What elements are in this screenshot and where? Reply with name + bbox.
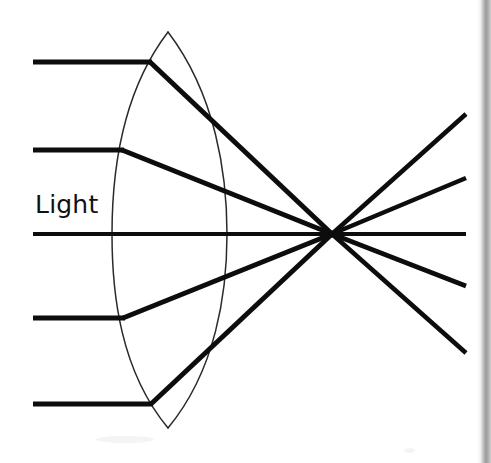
- page-edge-shadow: [478, 0, 491, 463]
- focal-point: [329, 231, 336, 238]
- lens-diagram-figure: Light: [0, 0, 491, 463]
- ray-diagram-canvas: [0, 0, 491, 463]
- diagram-background: [0, 0, 491, 463]
- light-label: Light: [35, 192, 98, 217]
